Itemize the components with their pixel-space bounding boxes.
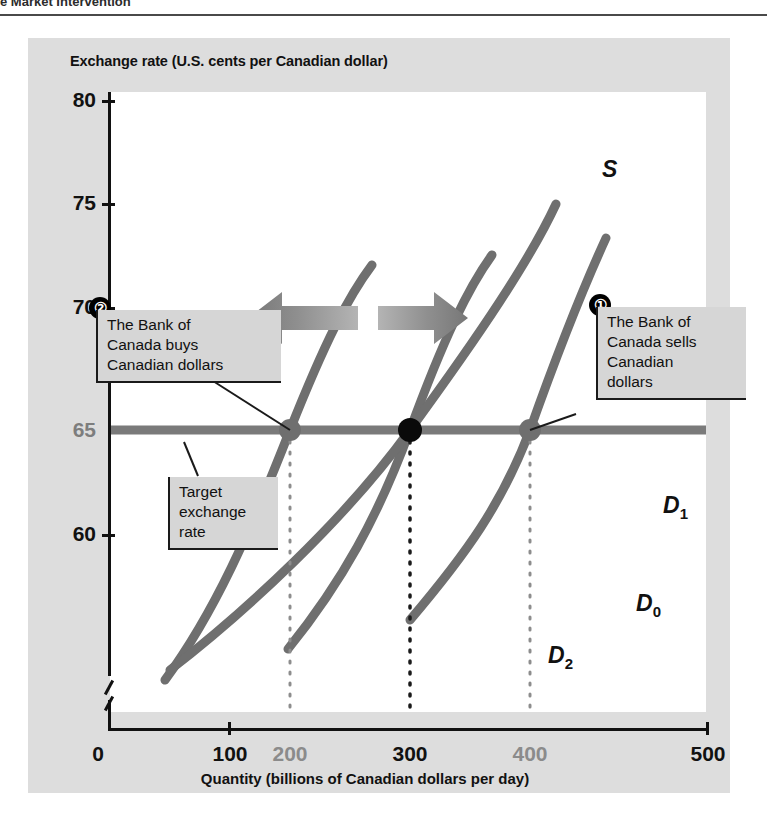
chart-svg <box>110 92 706 712</box>
x-label-200: 200 <box>260 742 320 766</box>
curve-label-d0-sub: 0 <box>653 603 661 620</box>
curve-label-supply: S <box>602 156 617 183</box>
x-label-0: 0 <box>68 742 128 766</box>
curve-label-d1-letter: D <box>663 492 680 518</box>
x-tick-500 <box>706 722 709 735</box>
curve-label-d1: D1 <box>663 492 688 522</box>
marker-equilibrium-300 <box>398 418 422 442</box>
y-tick-60 <box>102 534 115 537</box>
callout-bank-buys: The Bank of Canada buys Canadian dollars <box>96 310 281 383</box>
figure-page: e Market Intervention Exchange rate (U.S… <box>0 0 767 840</box>
y-label-80: 80 <box>48 88 96 112</box>
running-header: e Market Intervention <box>0 0 767 12</box>
x-label-100: 100 <box>200 742 260 766</box>
curve-label-d1-sub: 1 <box>680 505 688 522</box>
header-rule <box>0 14 767 16</box>
curve-label-d2-sub: 2 <box>565 655 573 672</box>
y-tick-80 <box>102 100 115 103</box>
x-axis-title: Quantity (billions of Canadian dollars p… <box>0 770 730 787</box>
y-axis-line <box>108 92 111 676</box>
y-label-65: 65 <box>48 418 96 442</box>
y-axis-title: Exchange rate (U.S. cents per Canadian d… <box>70 53 388 69</box>
curve-label-d2: D2 <box>548 642 573 672</box>
x-label-500: 500 <box>678 742 738 766</box>
x-tick-100 <box>228 722 231 735</box>
y-tick-75 <box>102 203 115 206</box>
curve-label-d0: D0 <box>636 590 661 620</box>
curve-label-d0-letter: D <box>636 590 653 616</box>
x-label-300: 300 <box>380 742 440 766</box>
x-axis-line <box>108 728 708 731</box>
x-label-400: 400 <box>500 742 560 766</box>
y-label-60: 60 <box>48 522 96 546</box>
plot-area <box>110 92 706 712</box>
y-label-75: 75 <box>48 191 96 215</box>
curve-label-d2-letter: D <box>548 642 565 668</box>
callout-target-rate: Target exchange rate <box>168 477 278 550</box>
callout-bank-sells: The Bank of Canada sells Canadian dollar… <box>596 307 746 400</box>
arrow-right-shift <box>378 292 468 344</box>
leader-line-target <box>184 442 198 476</box>
